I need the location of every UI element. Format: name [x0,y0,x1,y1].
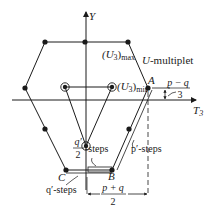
pq-plus-numerator: p + q [101,182,124,193]
qhalf-steps-label: -steps [85,143,108,154]
point-b-label: B [108,170,115,182]
u3-max-label: (U3)max [102,48,135,62]
pq-plus-denominator: 2 [111,196,116,207]
point-c-label: C [58,171,66,183]
pq-minus-numerator: p − q [166,77,189,88]
pq-minus-leader [168,92,176,96]
pprime-steps-label: p′-steps [131,143,162,154]
weight-point [42,126,47,131]
pprime-steps-bracket [117,90,152,170]
weight-point [125,39,130,44]
u3-min-label: (U3)min [117,80,149,94]
u-multiplet-label: U-multiplet [142,54,193,66]
qhalf-numerator: q′ [74,136,82,147]
qhalf-denominator: 2 [76,149,81,160]
t3-axis-label: T3 [193,104,203,118]
inner-triangle [65,87,112,146]
qprime-steps-label: q′-steps [46,184,77,195]
pq-minus-denominator: 3 [178,89,183,100]
weight-point [126,126,131,131]
weight-diagram: Y T3 (U3)max (U3)min U-multiplet A [0,0,212,211]
weight-point [82,39,87,44]
weight-point [42,39,47,44]
qhalf-leader [92,158,97,166]
point-a-label: A [147,74,155,86]
y-axis-label: Y [89,10,97,22]
weight-point [22,85,27,90]
